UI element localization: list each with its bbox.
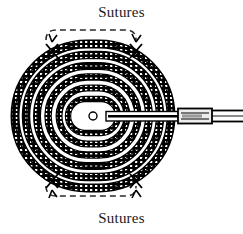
sutures-label-bottom: Sutures xyxy=(0,210,243,227)
center-dot xyxy=(89,112,97,120)
coil-diagram-svg xyxy=(0,0,243,234)
dashed-bracket-top xyxy=(46,30,136,40)
figure-canvas: Sutures xyxy=(0,0,243,234)
crimp-connector xyxy=(178,109,212,124)
